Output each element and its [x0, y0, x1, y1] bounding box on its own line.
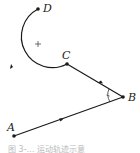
point-c: [65, 62, 69, 66]
label-a: A: [7, 122, 15, 133]
figure-caption: 图 3-… 运动轨迹示意: [8, 146, 85, 153]
label-d: D: [43, 3, 52, 14]
arc-c-to-d: [21, 9, 67, 68]
segment-b-c: [67, 64, 123, 97]
label-c: C: [62, 50, 70, 61]
segment-a-b: [14, 97, 123, 136]
point-d: [36, 7, 40, 11]
point-a: [12, 134, 16, 138]
label-b: B: [128, 92, 136, 103]
arrow-icon-ab: [59, 118, 64, 121]
motion-path-diagram: [0, 0, 140, 153]
point-b: [121, 95, 125, 99]
arrow-icon-arc: [10, 64, 13, 69]
